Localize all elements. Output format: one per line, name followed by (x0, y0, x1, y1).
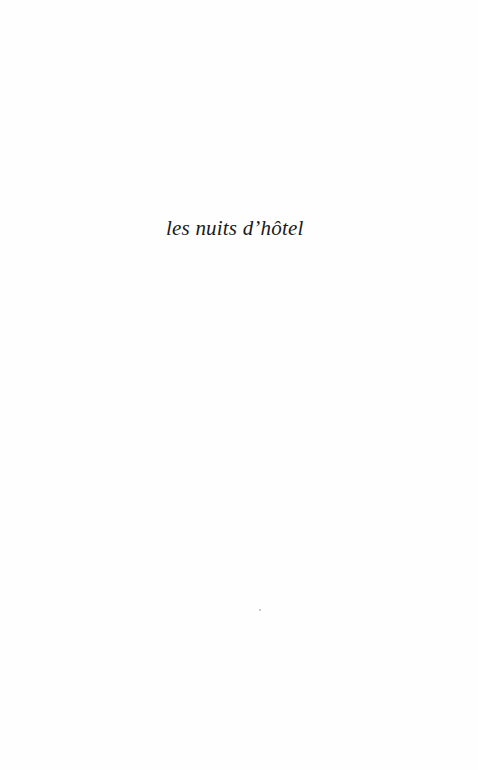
book-page: les nuits d’hôtel (0, 0, 478, 770)
scan-artifact (259, 609, 261, 611)
half-title: les nuits d’hôtel (166, 216, 304, 241)
